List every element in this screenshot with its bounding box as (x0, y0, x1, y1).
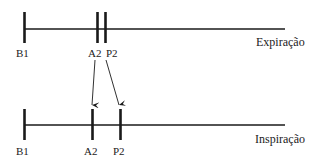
inspiration-timeline (24, 109, 285, 140)
expiration-timeline (24, 12, 285, 43)
inspiration-b1-label: B1 (16, 145, 29, 157)
expiration-b1-label: B1 (16, 47, 29, 59)
inspiration-a2-label: A2 (84, 145, 97, 157)
expiration-p2-label: P2 (106, 47, 118, 59)
inspiration-p2-label: P2 (113, 145, 125, 157)
shift-arrows (92, 60, 119, 105)
inspiration-title: Inspiração (255, 133, 305, 146)
expiration-title: Expiração (256, 36, 305, 49)
p2-shift-arrow (106, 60, 119, 105)
a2-shift-arrow (92, 60, 95, 105)
expiration-a2-label: A2 (88, 47, 101, 59)
